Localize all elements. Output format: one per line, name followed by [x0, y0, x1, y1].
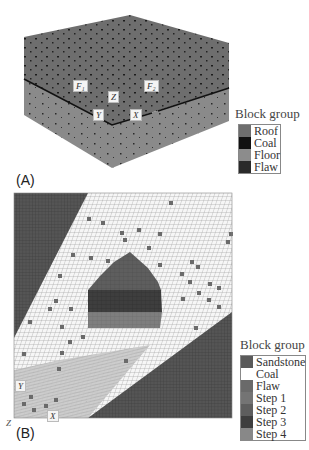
sandstone-swatch — [241, 356, 253, 368]
z-axis-label: Z — [108, 91, 119, 103]
legend-title: Block group — [240, 337, 306, 353]
f2-label: F₂ — [144, 80, 159, 92]
step-2-swatch — [241, 404, 253, 416]
step-4-swatch — [241, 428, 253, 440]
x-axis-label: X — [130, 109, 142, 121]
panel-b-label: (B) — [16, 425, 35, 441]
coal-swatch — [241, 368, 253, 380]
f1-label: F₁ — [73, 80, 88, 92]
coal-swatch — [239, 137, 251, 149]
panel-b-mesh — [14, 193, 233, 418]
b-z-axis-label: Z — [6, 418, 11, 428]
legend-item-flaw: Flaw — [239, 161, 280, 173]
flaw-swatch — [241, 380, 253, 392]
figure: F₁ F₂ Z Y X (A) Block group Roof Coal Fl… — [0, 0, 309, 450]
step-3-swatch — [241, 416, 253, 428]
roof-swatch — [239, 125, 251, 137]
legend-title: Block group — [235, 106, 300, 122]
b-x-axis-label: X — [47, 410, 59, 422]
panel-a-legend: Block group Roof Coal Floor Flaw — [235, 106, 300, 177]
b-y-axis-label: Y — [15, 380, 26, 392]
step-3-region — [88, 290, 162, 312]
panel-a-label: (A) — [16, 172, 35, 188]
floor-swatch — [239, 149, 251, 161]
step-1-swatch — [241, 392, 253, 404]
step-4-region — [88, 312, 162, 328]
legend-item-step-4: Step 4 — [241, 428, 305, 440]
panel-b-legend: Block group Sandstone Coal Flaw Step 1 S… — [240, 337, 306, 444]
flaw-swatch — [239, 161, 251, 173]
y-axis-label: Y — [93, 109, 104, 121]
